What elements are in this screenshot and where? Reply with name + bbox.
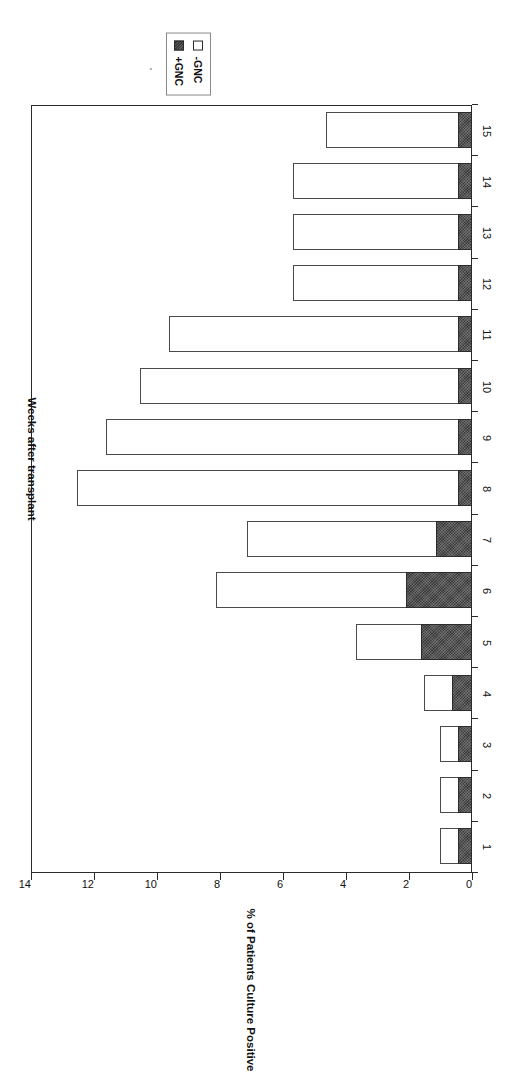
bar-group [440,726,472,762]
y-axis-tick [31,873,32,880]
bar-segment-positive-gnc [436,521,471,557]
x-axis-tick [472,821,478,822]
bar-segment-negative-gnc [440,777,459,813]
legend-item: -GNC [192,41,204,86]
bar-group [424,675,471,711]
x-axis-tick-label: 7 [481,537,493,543]
x-axis-tick [472,206,478,207]
x-axis-tick [472,258,478,259]
bar-segment-negative-gnc [293,163,458,199]
bar-segment-positive-gnc [458,163,471,199]
y-axis-label: % of Patients Culture Positive [245,840,257,1075]
bar-series-container [32,106,471,872]
x-axis-tick-label: 11 [481,330,493,341]
y-axis-tick-label: 12 [82,878,94,890]
bar-group [106,419,471,455]
bar-segment-positive-gnc [458,368,471,404]
y-axis-tick-label: 8 [214,878,220,890]
y-axis-tick-label: 4 [340,878,346,890]
filled-square-icon [174,41,184,51]
stray-mark [150,68,152,70]
x-axis: 123456789101112131415 [472,105,518,873]
x-axis-tick [472,411,478,412]
x-axis-tick-label: 10 [481,380,493,392]
x-axis-tick-label: 8 [481,486,493,492]
bar-segment-negative-gnc [140,368,458,404]
bar-group [326,112,471,148]
bar-segment-negative-gnc [106,419,459,455]
x-axis-tick-label: 12 [481,278,493,290]
bar-group [140,368,471,404]
x-axis-tick [472,718,478,719]
bar-group [356,624,471,660]
x-axis-tick-label: 14 [481,176,493,188]
x-axis-tick [472,565,478,566]
y-axis-tick [346,873,347,880]
y-axis-tick [409,873,410,880]
bar-segment-negative-gnc [424,675,452,711]
x-axis-tick-label: 6 [481,588,493,594]
x-axis-tick-label: 4 [481,691,493,697]
chart-legend: -GNC +GNC [166,33,211,96]
y-axis-tick [94,873,95,880]
x-axis-tick-label: 13 [481,227,493,239]
bar-segment-positive-gnc [406,573,471,609]
x-axis-label: Weeks after transplant [26,397,38,520]
bar-segment-negative-gnc [247,521,436,557]
legend-item-label: -GNC [192,57,204,84]
x-axis-tick [472,104,478,105]
bar-segment-positive-gnc [458,726,471,762]
x-axis-tick [472,770,478,771]
bar-segment-positive-gnc [458,112,471,148]
bar-group [216,573,471,609]
x-axis-tick-label: 2 [481,793,493,799]
bar-group [247,521,471,557]
x-axis-tick-label: 15 [481,124,493,136]
bar-segment-negative-gnc [77,470,458,506]
plot-area [31,105,472,873]
x-axis-tick-label: 9 [481,435,493,441]
y-axis-tick [220,873,221,880]
bar-group [169,317,471,353]
open-square-icon [193,41,203,51]
x-axis-tick [472,872,478,873]
bar-segment-negative-gnc [356,624,421,660]
bar-segment-negative-gnc [293,265,458,301]
bar-segment-positive-gnc [452,675,471,711]
bar-segment-positive-gnc [421,624,471,660]
x-axis-tick [472,514,478,515]
bar-segment-negative-gnc [169,317,459,353]
x-axis-tick [472,309,478,310]
bar-group [293,163,471,199]
y-axis-tick-label: 10 [145,878,157,890]
y-axis-tick [283,873,284,880]
x-axis-tick-label: 3 [481,742,493,748]
y-axis-tick-label: 0 [466,878,472,890]
bar-segment-positive-gnc [458,419,471,455]
y-axis-tick [472,873,473,880]
x-axis-tick [472,155,478,156]
bar-segment-positive-gnc [458,214,471,250]
bar-group [440,777,472,813]
bar-group [440,829,472,865]
bar-segment-negative-gnc [326,112,458,148]
bar-group [77,470,471,506]
y-axis-tick-label: 2 [403,878,409,890]
bar-group [293,214,471,250]
y-axis-tick-label: 14 [19,878,31,890]
x-axis-tick-label: 1 [481,844,493,850]
legend-item: +GNC [173,41,185,86]
x-axis-tick [472,462,478,463]
bar-segment-positive-gnc [458,470,471,506]
bar-segment-negative-gnc [216,573,407,609]
x-axis-tick [472,616,478,617]
bar-segment-positive-gnc [458,317,471,353]
bar-segment-positive-gnc [458,829,471,865]
y-axis-tick-label: 6 [277,878,283,890]
bar-segment-positive-gnc [458,265,471,301]
bar-segment-negative-gnc [293,214,458,250]
bar-group [293,265,471,301]
bar-segment-negative-gnc [440,829,459,865]
x-axis-tick [472,667,478,668]
y-axis-tick [157,873,158,880]
